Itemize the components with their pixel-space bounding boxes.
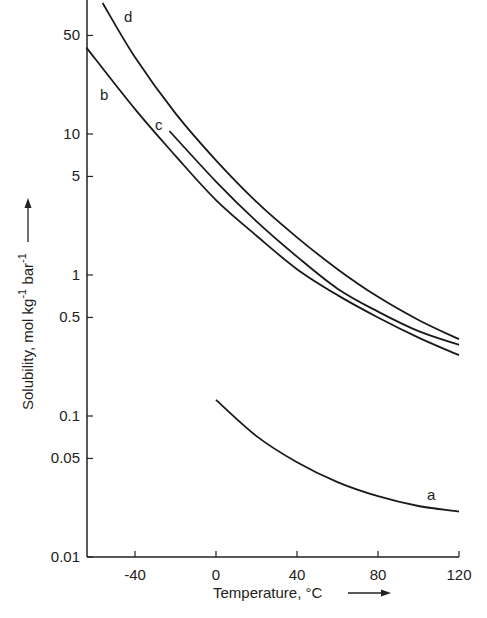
y-tick-label: 0.01 [51,548,80,565]
y-tick-label: 10 [63,125,80,142]
y-tick-label: 50 [63,26,80,43]
x-arrow-head-icon [381,590,391,597]
x-tick-label: -40 [124,566,146,583]
y-tick-label: 1 [72,266,80,283]
curve-label-a: a [427,486,436,503]
y-tick-label: 0.1 [59,407,80,424]
curve-labels: d b c a [100,8,436,503]
curve-b [86,48,459,356]
curve-a [216,400,459,512]
x-tick-label: 80 [370,566,387,583]
x-tick-label: 120 [446,566,471,583]
curve-label-b: b [100,86,108,103]
x-tick-label: 40 [289,566,306,583]
x-axis-title: Temperature, °C [213,584,391,601]
curve-label-d: d [124,8,132,25]
curve-d [103,3,459,339]
y-axis-title: Solubility, mol kg-1 bar-1 [16,198,36,410]
y-arrow-head-icon [25,198,32,208]
y-axis-label: Solubility, mol kg-1 bar-1 [16,253,36,410]
x-axis-label: Temperature, °C [213,584,323,601]
x-tick-label: 0 [212,566,220,583]
y-tick-label: 5 [72,167,80,184]
curves [86,3,459,512]
y-tick-label: 0.05 [51,449,80,466]
axes [87,0,459,557]
x-ticks: -4004080120 [124,551,471,583]
curve-c [169,131,459,345]
curve-label-c: c [155,116,163,133]
y-tick-label: 0.5 [59,308,80,325]
solubility-chart: 5010510.50.10.050.01 -4004080120 d b c a… [0,0,487,618]
